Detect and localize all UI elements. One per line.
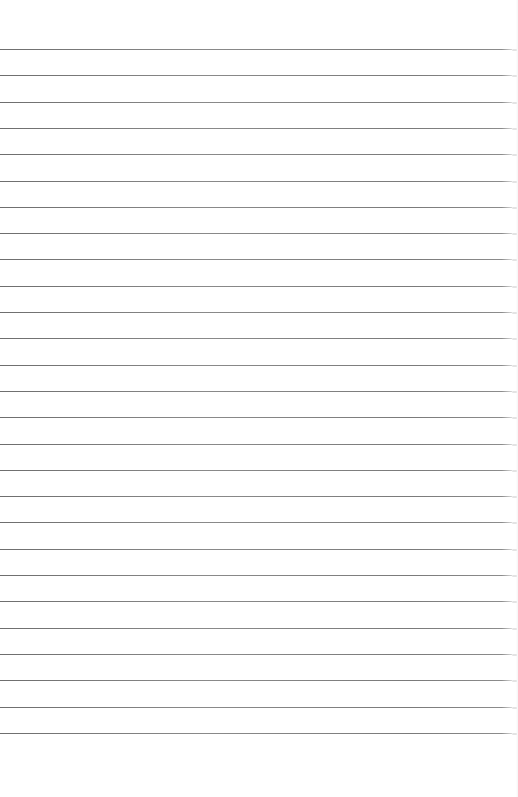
ruled-line-edge <box>512 233 517 235</box>
ruled-line-edge <box>512 207 517 209</box>
ruled-line <box>0 470 512 471</box>
ruled-line-edge <box>512 470 517 472</box>
ruled-line <box>0 259 512 260</box>
ruled-line-edge <box>512 128 517 130</box>
ruled-line-edge <box>512 338 517 340</box>
ruled-line <box>0 233 512 234</box>
ruled-line <box>0 75 512 76</box>
ruled-line <box>0 181 512 182</box>
ruled-line <box>0 154 512 155</box>
ruled-line <box>0 601 512 602</box>
ruled-line <box>0 628 512 629</box>
ruled-line <box>0 707 512 708</box>
ruled-line <box>0 49 512 50</box>
ruled-line-edge <box>512 733 517 735</box>
ruled-line-edge <box>512 312 517 314</box>
ruled-line-edge <box>512 259 517 261</box>
ruled-line-edge <box>512 286 517 288</box>
ruled-line-edge <box>512 496 517 498</box>
ruled-line-edge <box>512 680 517 682</box>
lined-paper-page <box>0 0 518 797</box>
ruled-line <box>0 733 512 734</box>
ruled-line <box>0 338 512 339</box>
ruled-line-edge <box>512 391 517 393</box>
ruled-line-edge <box>512 75 517 77</box>
ruled-line-edge <box>512 444 517 446</box>
ruled-line-edge <box>512 102 517 104</box>
ruled-line <box>0 522 512 523</box>
ruled-line <box>0 654 512 655</box>
ruled-line-edge <box>512 601 517 603</box>
ruled-line <box>0 417 512 418</box>
ruled-line-edge <box>512 707 517 709</box>
ruled-line <box>0 391 512 392</box>
ruled-line-edge <box>512 365 517 367</box>
ruled-line <box>0 102 512 103</box>
ruled-line-edge <box>512 181 517 183</box>
ruled-line-edge <box>512 417 517 419</box>
ruled-line <box>0 365 512 366</box>
ruled-line <box>0 680 512 681</box>
ruled-line <box>0 286 512 287</box>
ruled-line-edge <box>512 575 517 577</box>
ruled-line <box>0 128 512 129</box>
ruled-line-edge <box>512 522 517 524</box>
ruled-line-edge <box>512 154 517 156</box>
ruled-line <box>0 207 512 208</box>
ruled-line <box>0 312 512 313</box>
ruled-line-edge <box>512 549 517 551</box>
ruled-line-edge <box>512 654 517 656</box>
ruled-line-edge <box>512 628 517 630</box>
ruled-line <box>0 549 512 550</box>
ruled-line-edge <box>512 49 517 51</box>
ruled-line <box>0 496 512 497</box>
ruled-line <box>0 575 512 576</box>
ruled-line <box>0 444 512 445</box>
